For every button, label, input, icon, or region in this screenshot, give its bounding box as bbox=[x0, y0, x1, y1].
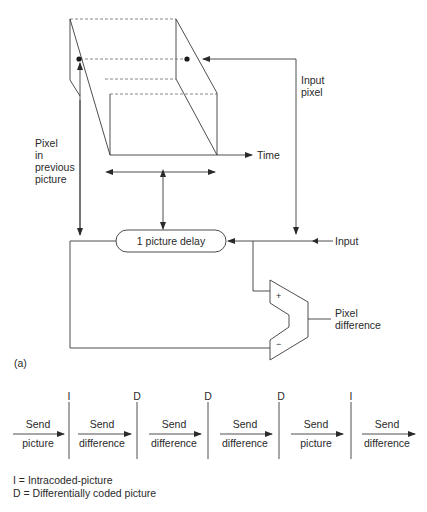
plus-sign: + bbox=[276, 291, 281, 301]
left-diagonal-top bbox=[70, 19, 110, 155]
segment-4-top: Send bbox=[233, 418, 258, 430]
pixel-prev-label-3: previous bbox=[35, 161, 75, 173]
legend-differential: D = Differentially coded picture bbox=[13, 487, 156, 499]
input-to-plus-line bbox=[253, 241, 270, 291]
segment-6-top: Send bbox=[375, 418, 400, 430]
time-label: Time bbox=[257, 149, 280, 161]
segment-5-top: Send bbox=[304, 418, 329, 430]
pixel-prev-label-1: Pixel bbox=[35, 137, 58, 149]
right-diagonal-top bbox=[176, 19, 217, 93]
right-diagonal-bottom bbox=[176, 79, 217, 155]
input-arrowhead bbox=[312, 238, 318, 244]
segment-2-top: Send bbox=[90, 418, 115, 430]
picture-delay-label: 1 picture delay bbox=[137, 235, 206, 247]
previous-pixel-dot bbox=[76, 56, 81, 61]
legend-intracoded: I = Intracoded-picture bbox=[13, 474, 113, 486]
segment-4-bottom: difference bbox=[222, 437, 268, 449]
delay-to-minus-line bbox=[70, 241, 270, 348]
minus-sign: − bbox=[276, 339, 281, 349]
input-label: Input bbox=[335, 235, 358, 247]
segment-5-bottom: picture bbox=[300, 437, 332, 449]
marker-3: D bbox=[204, 390, 212, 402]
input-pixel-label-1: Input bbox=[301, 74, 324, 86]
pixel-diff-label-2: difference bbox=[335, 319, 381, 331]
marker-5: I bbox=[350, 390, 353, 402]
figure-tag: (a) bbox=[14, 357, 27, 369]
input-pixel-label-2: pixel bbox=[301, 86, 323, 98]
segment-1-bottom: picture bbox=[22, 437, 54, 449]
picture-volume bbox=[70, 19, 217, 155]
segment-3-bottom: difference bbox=[151, 437, 197, 449]
marker-2: D bbox=[133, 390, 141, 402]
picture-delay-diagram: Time Input pixel Pixel in previous pictu… bbox=[0, 0, 427, 512]
segment-6-bottom: difference bbox=[364, 437, 410, 449]
pixel-prev-label-4: picture bbox=[35, 173, 67, 185]
segment-3-top: Send bbox=[162, 418, 187, 430]
coding-timeline: Send picture I Send difference D Send di… bbox=[13, 390, 415, 459]
pixel-diff-label-1: Pixel bbox=[335, 307, 358, 319]
marker-4: D bbox=[277, 390, 285, 402]
marker-1: I bbox=[68, 390, 71, 402]
segment-1-top: Send bbox=[26, 418, 51, 430]
left-diagonal-bottom bbox=[70, 80, 80, 96]
segment-2-bottom: difference bbox=[79, 437, 125, 449]
input-pixel-dot bbox=[184, 56, 189, 61]
pixel-prev-label-2: in bbox=[35, 149, 43, 161]
